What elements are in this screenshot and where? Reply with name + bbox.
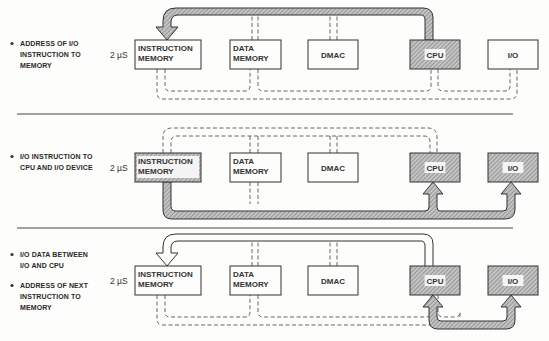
instruction-memory-label-line1: INSTRUCTION: [138, 157, 193, 166]
panel-step-3: I/O DATA BETWEENI/O AND CPUADDRESS OF NE…: [10, 234, 538, 329]
address-bus-arrow: [156, 234, 433, 266]
bullet-icon: [10, 42, 13, 45]
note-text: MEMORY: [20, 62, 52, 69]
data-memory-label-line2: MEMORY: [233, 167, 269, 176]
panel-step-2: I/O INSTRUCTION TOCPU AND I/O DEVICE2 µS…: [10, 128, 538, 219]
bullet-icon: [10, 284, 13, 287]
bullet-icon: [10, 253, 13, 256]
instruction-memory-label-line2: MEMORY: [138, 167, 174, 176]
timing-label: 2 µS: [110, 276, 128, 286]
dashed-bus-inner: [258, 69, 431, 91]
component-instruction-memory: INSTRUCTIONMEMORY: [135, 153, 201, 182]
dashed-bus-inner: [171, 136, 430, 153]
diagram-canvas: ADDRESS OF I/OINSTRUCTION TOMEMORY2 µSIN…: [0, 0, 549, 341]
component-cpu: CPU: [410, 153, 460, 182]
data-memory-label-line2: MEMORY: [233, 280, 269, 289]
io-label: I/O: [508, 51, 519, 60]
cpu-label: CPU: [427, 277, 444, 286]
io-label: I/O: [508, 164, 519, 173]
dashed-bus-outer: [157, 295, 430, 325]
note-text: CPU AND I/O DEVICE: [20, 164, 93, 171]
timing-label: 2 µS: [110, 163, 128, 173]
dashed-bus-inner: [165, 295, 250, 317]
bullet-icon: [10, 155, 13, 158]
component-data-memory: DATAMEMORY: [230, 40, 281, 69]
data-memory-label-line1: DATA: [233, 44, 254, 53]
active-bus-arrow: [163, 182, 521, 219]
dmac-label: DMAC: [321, 51, 345, 60]
note-text: ADDRESS OF I/O: [20, 40, 79, 47]
component-dmac: DMAC: [308, 153, 358, 182]
note-text: INSTRUCTION TO: [20, 293, 81, 300]
dashed-bus-inner: [438, 69, 510, 91]
io-label: I/O: [508, 277, 519, 286]
dashed-bus-inner: [165, 69, 250, 91]
note-text: MEMORY: [20, 304, 52, 311]
instruction-memory-label-line2: MEMORY: [138, 280, 174, 289]
panel-step-1: ADDRESS OF I/OINSTRUCTION TOMEMORY2 µSIN…: [10, 8, 538, 99]
dmac-label: DMAC: [321, 277, 345, 286]
data-memory-label-line2: MEMORY: [233, 54, 269, 63]
instruction-memory-label-line2: MEMORY: [138, 54, 174, 63]
timing-label: 2 µS: [110, 50, 128, 60]
dashed-bus-outer: [163, 128, 437, 153]
component-data-memory: DATAMEMORY: [230, 153, 281, 182]
dashed-bus-inner: [258, 295, 431, 317]
component-io: I/O: [488, 153, 538, 182]
component-io: I/O: [488, 40, 538, 69]
component-instruction-memory: INSTRUCTIONMEMORY: [135, 40, 201, 69]
component-cpu: CPU: [410, 266, 460, 295]
cpu-label: CPU: [427, 51, 444, 60]
component-dmac: DMAC: [308, 266, 358, 295]
dashed-bus-outer: [157, 69, 517, 99]
component-instruction-memory: INSTRUCTIONMEMORY: [135, 266, 201, 295]
cpu-label: CPU: [427, 164, 444, 173]
note-text: I/O DATA BETWEEN: [20, 251, 88, 258]
data-memory-label-line1: DATA: [233, 270, 254, 279]
dmac-label: DMAC: [321, 164, 345, 173]
note-text: I/O AND CPU: [20, 262, 64, 269]
component-dmac: DMAC: [308, 40, 358, 69]
data-memory-label-line1: DATA: [233, 157, 254, 166]
instruction-memory-label-line1: INSTRUCTION: [138, 270, 193, 279]
active-bus-arrow: [156, 8, 433, 40]
note-text: INSTRUCTION TO: [20, 51, 81, 58]
note-text: ADDRESS OF NEXT: [20, 282, 89, 289]
component-data-memory: DATAMEMORY: [230, 266, 281, 295]
note-text: I/O INSTRUCTION TO: [20, 153, 93, 160]
component-io: I/O: [488, 266, 538, 295]
instruction-memory-label-line1: INSTRUCTION: [138, 44, 193, 53]
component-cpu: CPU: [410, 40, 460, 69]
